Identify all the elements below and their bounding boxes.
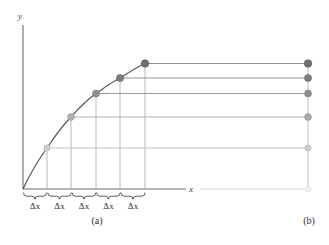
brace-4	[97, 193, 121, 199]
interval-braces	[24, 193, 146, 199]
caption-panel-a: (a)	[91, 215, 102, 227]
vertical-guide-lines	[47, 64, 145, 190]
interval-label-4: Δx	[103, 201, 114, 211]
function-curve	[23, 64, 145, 190]
interval-label-1: Δx	[30, 201, 41, 211]
panel-b-point-4	[304, 74, 311, 81]
panel-b-point-origin	[305, 186, 311, 192]
y-axis-label: y	[17, 11, 22, 21]
figure-svg: y x	[0, 0, 329, 245]
interval-label-3: Δx	[79, 201, 90, 211]
sample-point-2	[68, 114, 75, 121]
interval-label-2: Δx	[54, 201, 65, 211]
caption-panel-b: (b)	[303, 215, 315, 227]
sample-point-5	[141, 60, 149, 68]
panel-b-point-2	[305, 114, 312, 121]
brace-1	[24, 193, 47, 199]
sample-point-3	[93, 90, 100, 97]
panel-b-point-1	[305, 145, 311, 151]
figure-container: y x	[0, 0, 329, 245]
brace-2	[48, 193, 71, 199]
sample-point-1	[44, 145, 50, 151]
x-axis-label: x	[188, 184, 193, 194]
interval-labels: Δx Δx Δx Δx Δx	[30, 201, 139, 211]
sample-point-4	[116, 74, 123, 81]
panel-b-group	[304, 60, 312, 192]
panel-b-point-3	[305, 90, 312, 97]
interval-label-5: Δx	[128, 201, 139, 211]
brace-3	[72, 193, 96, 199]
horizontal-projection-lines	[47, 64, 308, 190]
panel-b-point-5	[304, 60, 312, 68]
brace-5	[121, 193, 145, 199]
